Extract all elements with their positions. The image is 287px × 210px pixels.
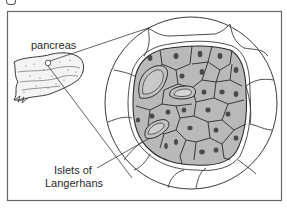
- islet-of-langerhans: [133, 46, 247, 165]
- label-islets-line1: Islets of: [54, 164, 92, 176]
- islet-location-marker: [45, 60, 51, 66]
- pancreas-organ: [14, 53, 84, 103]
- label-pancreas: pancreas: [31, 39, 76, 51]
- label-islets-line2: Langerhans: [45, 177, 103, 189]
- magnified-tissue-circle: [105, 17, 277, 189]
- pancreas-islets-diagram: [0, 0, 287, 210]
